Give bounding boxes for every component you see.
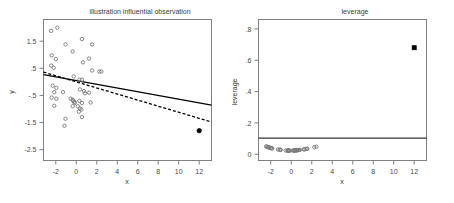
left-y-tick-label: .5 xyxy=(31,65,37,72)
data-point xyxy=(61,90,64,93)
data-point xyxy=(50,96,53,99)
left-x-tick-label: 8 xyxy=(156,168,160,175)
data-point xyxy=(80,37,83,40)
left-x-axis-ticks: -2024681012 xyxy=(53,161,204,175)
data-point xyxy=(87,57,90,60)
left-x-tick-label: 10 xyxy=(175,168,183,175)
figure-container: illustration influential observation 1.5… xyxy=(0,0,454,203)
data-point xyxy=(90,43,93,46)
right-plot-svg: leverage .8.6.4.20 -2024681012 x leverag… xyxy=(227,0,454,203)
data-point xyxy=(50,54,53,57)
data-point xyxy=(89,101,92,104)
left-y-tick-label: -2.5 xyxy=(24,146,36,153)
right-x-tick-label: 12 xyxy=(410,168,418,175)
right-data-points xyxy=(264,46,416,153)
data-point xyxy=(64,43,67,46)
data-point xyxy=(71,105,74,108)
right-y-tick-label: .2 xyxy=(246,120,252,127)
data-point xyxy=(81,61,84,64)
left-x-tick-label: -2 xyxy=(53,168,59,175)
data-point xyxy=(55,86,58,89)
data-point xyxy=(72,75,75,78)
data-point xyxy=(52,66,55,69)
left-x-tick-label: 6 xyxy=(136,168,140,175)
left-x-tick-label: 2 xyxy=(95,168,99,175)
right-y-tick-label: 0 xyxy=(248,151,252,158)
left-x-tick-label: 0 xyxy=(74,168,78,175)
panel-right-leverage: leverage .8.6.4.20 -2024681012 x leverag… xyxy=(227,0,454,203)
left-y-axis-label: y xyxy=(8,90,16,94)
left-fit-lines xyxy=(44,72,212,122)
right-x-axis-ticks: -2024681012 xyxy=(268,161,419,175)
data-point xyxy=(80,115,83,118)
data-point xyxy=(63,124,66,127)
right-plot-title: leverage xyxy=(342,8,369,16)
data-point xyxy=(54,57,57,60)
right-x-axis-label: x xyxy=(340,178,344,185)
data-point xyxy=(64,117,67,120)
right-y-axis-label: leverage xyxy=(231,78,239,105)
right-x-tick-label: -2 xyxy=(268,168,274,175)
right-x-tick-label: 4 xyxy=(330,168,334,175)
left-x-axis-label: x xyxy=(125,178,129,185)
data-point xyxy=(90,69,93,72)
data-point xyxy=(55,97,58,100)
right-y-axis-ticks: .8.6.4.20 xyxy=(246,26,259,158)
data-point xyxy=(412,46,416,50)
data-point xyxy=(53,90,56,93)
left-y-axis-ticks: 1.5.5-.5-1.5-2.5 xyxy=(24,38,43,153)
left-y-tick-label: -1.5 xyxy=(24,119,36,126)
data-point xyxy=(56,26,59,29)
data-point xyxy=(53,104,56,107)
right-y-tick-label: .6 xyxy=(246,57,252,64)
left-x-tick-label: 4 xyxy=(115,168,119,175)
right-x-tick-label: 2 xyxy=(310,168,314,175)
right-x-tick-label: 0 xyxy=(289,168,293,175)
panel-left-scatter: illustration influential observation 1.5… xyxy=(0,0,227,203)
data-point xyxy=(197,128,201,132)
right-y-tick-label: .4 xyxy=(246,88,252,95)
data-point xyxy=(51,84,54,87)
right-x-tick-label: 6 xyxy=(351,168,355,175)
data-point xyxy=(71,50,74,53)
right-y-tick-label: .8 xyxy=(246,26,252,33)
data-point xyxy=(77,110,80,113)
right-x-tick-label: 10 xyxy=(390,168,398,175)
fit-without-influential-point xyxy=(44,72,212,122)
data-point xyxy=(78,88,81,91)
left-y-tick-label: 1.5 xyxy=(27,38,37,45)
left-x-tick-label: 12 xyxy=(195,168,203,175)
data-point xyxy=(80,101,83,104)
left-y-tick-label: -.5 xyxy=(28,92,36,99)
data-point xyxy=(49,29,52,32)
right-plot-frame xyxy=(259,20,427,161)
data-point xyxy=(87,91,90,94)
left-plot-svg: illustration influential observation 1.5… xyxy=(0,0,227,203)
left-plot-title: illustration influential observation xyxy=(89,8,190,15)
right-x-tick-label: 8 xyxy=(371,168,375,175)
